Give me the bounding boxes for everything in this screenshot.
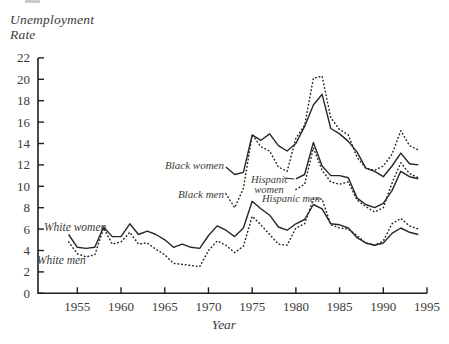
unemployment-rate-figure: Unemployment Rate 0246810121416182022195… [0,0,449,344]
x-tick-label: 1975 [239,299,265,314]
y-tick-label: 18 [17,93,30,108]
series-label-white-men: White men [37,254,86,266]
x-tick-label: 1965 [152,299,178,314]
x-tick-label: 1960 [108,299,134,314]
series-label-black-men: Black men [178,188,225,200]
y-tick-label: 6 [24,222,31,237]
line-chart: 0246810121416182022195519601965197019751… [0,0,449,344]
y-tick-label: 16 [17,115,31,130]
x-tick-label: 1990 [370,299,396,314]
y-tick-label: 8 [24,200,31,215]
y-tick-label: 0 [24,286,31,301]
x-tick-label: 1970 [195,299,221,314]
series-white-men [69,199,419,267]
x-tick-label: 1980 [283,299,309,314]
y-tick-label: 14 [17,136,31,151]
y-tick-label: 12 [17,157,30,172]
x-tick-label: 1955 [64,299,90,314]
y-tick-label: 4 [24,243,31,258]
y-tick-label: 10 [17,179,30,194]
y-tick-label: 20 [17,72,30,87]
series-label-white-women: White women [44,221,107,233]
axes [38,58,427,293]
x-axis-title: Year [212,317,237,332]
series-label-black-women: Black women [165,159,224,171]
y-tick-label: 22 [17,50,30,65]
y-tick-label: 2 [24,264,31,279]
x-tick-label: 1995 [414,299,440,314]
x-tick-label: 1985 [327,299,353,314]
series-label-hispanic-men: Hispanic men [261,193,320,204]
